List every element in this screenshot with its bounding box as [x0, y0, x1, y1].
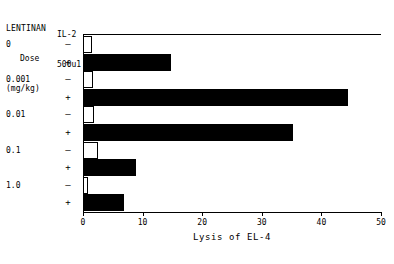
- il2-plus-label: +: [62, 58, 74, 67]
- dose-label: 0.1: [6, 146, 20, 155]
- header-units-label: (mg/kg): [6, 84, 46, 94]
- bar-il2-plus: [83, 124, 293, 141]
- x-tick-label: 10: [138, 218, 148, 227]
- il2-plus-label: +: [62, 163, 74, 172]
- x-tick-label: 30: [257, 218, 267, 227]
- dose-label: 0.01: [6, 110, 25, 119]
- il2-minus-label: –: [62, 110, 74, 119]
- bar-il2-minus: [83, 36, 92, 53]
- bar-il2-minus: [83, 142, 98, 159]
- chart-figure: LENTINAN Dose (mg/kg) IL-2 500u1 0–+0.00…: [0, 0, 394, 264]
- bar-il2-plus: [83, 159, 136, 176]
- x-tick: [143, 212, 144, 216]
- x-tick: [321, 212, 322, 216]
- x-tick: [202, 212, 203, 216]
- chart-header: LENTINAN Dose (mg/kg): [6, 4, 46, 114]
- il2-minus-label: –: [62, 75, 74, 84]
- il2-minus-label: –: [62, 40, 74, 49]
- x-tick-label: 20: [197, 218, 207, 227]
- il2-minus-label: –: [62, 146, 74, 155]
- x-tick: [262, 212, 263, 216]
- x-tick-label: 40: [317, 218, 327, 227]
- plot-top-rule: [83, 34, 381, 35]
- header-dose-label: Dose: [6, 54, 46, 64]
- bar-il2-minus: [83, 106, 94, 123]
- x-axis-line: [83, 212, 381, 213]
- x-tick-label: 50: [376, 218, 386, 227]
- x-axis-title: Lysis of EL-4: [83, 232, 381, 242]
- bar-il2-plus: [83, 194, 124, 211]
- il2-plus-label: +: [62, 93, 74, 102]
- dose-label: 0: [6, 40, 11, 49]
- bar-il2-minus: [83, 177, 88, 194]
- bar-il2-plus: [83, 54, 171, 71]
- il2-plus-label: +: [62, 198, 74, 207]
- il2-plus-label: +: [62, 128, 74, 137]
- x-tick: [83, 212, 84, 216]
- bar-il2-minus: [83, 71, 93, 88]
- dose-label: 0.001: [6, 75, 30, 84]
- dose-label: 1.0: [6, 181, 20, 190]
- plot-area: 01020304050 Lysis of EL-4: [83, 34, 381, 212]
- x-tick-label: 0: [81, 218, 86, 227]
- bar-il2-plus: [83, 89, 348, 106]
- header-lentinan-title: LENTINAN: [6, 24, 46, 34]
- x-tick: [381, 212, 382, 216]
- il2-minus-label: –: [62, 181, 74, 190]
